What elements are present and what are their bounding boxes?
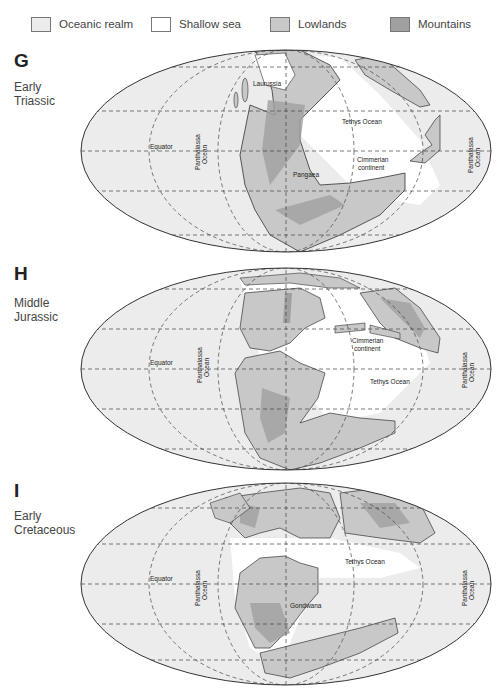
lowlands-swatch [270, 17, 290, 32]
paleomap-early-cretaceous: Equator PanthalassaOcean PanthalassaOcea… [0, 478, 503, 693]
legend-item-oceanic-realm: Oceanic realm [31, 16, 133, 32]
label-continent: continent [358, 164, 385, 171]
label-equator: Equator [150, 575, 174, 583]
oceanic-realm-swatch [31, 17, 51, 32]
legend-label: Oceanic realm [59, 18, 133, 30]
legend-item-lowlands: Lowlands [270, 16, 347, 32]
legend-label: Shallow sea [179, 18, 241, 30]
label-gondwana: Gondwana [290, 602, 322, 609]
label-tethys-ocean: Tethys Ocean [370, 378, 410, 386]
label-equator: Equator [150, 143, 174, 151]
label-tethys-ocean: Tethys Ocean [345, 558, 385, 566]
legend-label: Lowlands [298, 18, 347, 30]
mountains-swatch [390, 17, 410, 32]
label-continent: continent [354, 345, 381, 352]
label-equator: Equator [150, 359, 174, 367]
paleomap-middle-jurassic: Equator PanthalassaOcean PanthalassaOcea… [0, 263, 503, 475]
legend-item-mountains: Mountains [390, 16, 471, 32]
map-legend: Oceanic realm Shallow sea Lowlands Mount… [0, 0, 503, 40]
label-tethys-ocean: Tethys Ocean [342, 118, 382, 126]
label-cimmerian: Cimmerian [352, 337, 384, 344]
shallow-sea-swatch [151, 17, 171, 32]
island [242, 78, 248, 102]
label-cimmerian: Cimmerian [357, 156, 389, 163]
paleomap-early-triassic: Equator PanthalassaOcean PanthalassaOcea… [0, 45, 503, 260]
label-laurussia: Laurussia [253, 80, 282, 87]
label-pangaea: Pangaea [293, 171, 319, 179]
legend-item-shallow-sea: Shallow sea [151, 16, 241, 32]
legend-label: Mountains [418, 18, 471, 30]
island [234, 92, 238, 108]
